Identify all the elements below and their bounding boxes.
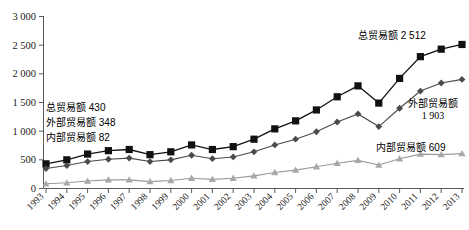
x-tick-label: 1996 (87, 191, 108, 212)
data-point-marker (188, 152, 195, 159)
annotation-external-end-label: 外部贸易额 (400, 95, 466, 110)
data-point-marker (334, 93, 341, 100)
y-tick-label: 2 000 (12, 68, 36, 79)
annotation-internal-end: 内部贸易额 609 (376, 137, 445, 155)
data-point-marker (334, 119, 341, 126)
data-point-marker (188, 141, 195, 148)
x-tick-label: 2007 (316, 191, 337, 212)
data-point-marker (251, 148, 258, 155)
data-point-marker (84, 158, 91, 165)
y-tick-label: 1 500 (12, 97, 36, 108)
x-tick-label: 1995 (67, 191, 88, 212)
annotation-total-end: 总贸易额 2 512 (358, 25, 426, 43)
data-point-marker (292, 117, 299, 124)
data-point-marker (209, 146, 216, 153)
data-point-marker (354, 82, 361, 89)
data-point-marker (313, 106, 320, 113)
x-tick-label: 2003 (233, 191, 254, 212)
data-point-marker (250, 136, 257, 143)
x-tick-label: 2011 (400, 191, 420, 211)
y-tick-label: 0 (31, 183, 36, 194)
data-point-marker (230, 143, 237, 150)
data-point-marker (188, 175, 195, 181)
x-tick-label: 2005 (275, 191, 296, 212)
data-point-marker (271, 142, 278, 149)
y-tick-label: 500 (20, 154, 36, 165)
x-tick-label: 1994 (46, 191, 67, 212)
annotation-internal-end-text: 内部贸易额 609 (376, 142, 445, 153)
x-tick-label: 2006 (295, 191, 316, 212)
data-point-marker (375, 99, 382, 106)
x-axis-ticks (46, 189, 462, 194)
data-point-marker (167, 148, 174, 155)
data-point-marker (126, 155, 133, 162)
data-point-marker (292, 136, 299, 143)
data-point-marker (459, 76, 466, 83)
x-tick-label: 1999 (150, 191, 171, 212)
data-point-marker (147, 158, 154, 165)
data-point-marker (396, 75, 403, 82)
data-point-marker (438, 46, 445, 53)
data-point-marker (230, 154, 237, 161)
x-tick-label: 2004 (254, 191, 275, 212)
data-point-marker (105, 156, 112, 163)
annotation-external-end-value: 1 903 (400, 110, 466, 121)
trade-volume-line-chart: 05001 0001 5002 0002 5003 000 1993199419… (0, 0, 469, 230)
x-tick-label: 2000 (171, 191, 192, 212)
data-point-marker (271, 125, 278, 132)
annotation-external-end: 外部贸易额 1 903 (400, 95, 466, 121)
data-point-marker (438, 80, 445, 87)
data-point-marker (417, 53, 424, 60)
x-tick-label: 1993 (25, 191, 46, 212)
annotation-internal-start-text-real: 内部贸易额 82 (46, 132, 110, 143)
data-point-marker (146, 151, 153, 158)
x-tick-label: 2008 (337, 191, 358, 212)
x-axis-labels: 1993199419951996199719981999200020012002… (25, 191, 462, 212)
data-point-marker (354, 157, 361, 163)
data-point-marker (458, 41, 465, 48)
x-tick-label: 2013 (441, 191, 462, 212)
data-point-marker (313, 128, 320, 135)
data-point-marker (126, 146, 133, 153)
x-tick-label: 1998 (129, 191, 150, 212)
data-point-marker (458, 150, 465, 156)
data-point-marker (167, 156, 174, 163)
x-tick-label: 2001 (191, 191, 212, 212)
x-tick-label: 2012 (420, 191, 441, 212)
x-tick-label: 2010 (379, 191, 400, 212)
data-point-marker (209, 155, 216, 162)
y-tick-label: 2 500 (12, 40, 36, 51)
x-tick-label: 2009 (358, 191, 379, 212)
data-point-marker (84, 151, 91, 158)
x-tick-label: 2002 (212, 191, 233, 212)
x-tick-label: 1997 (108, 191, 129, 212)
data-point-marker (105, 147, 112, 154)
y-tick-label: 3 000 (12, 11, 36, 22)
y-axis-labels: 05001 0001 5002 0002 5003 000 (12, 11, 36, 194)
annotation-total-end-text: 总贸易额 2 512 (358, 30, 426, 41)
y-tick-label: 1 000 (12, 126, 36, 137)
annotation-internal-start: 内部贸易额 82 (46, 127, 110, 145)
data-point-marker (355, 111, 362, 118)
